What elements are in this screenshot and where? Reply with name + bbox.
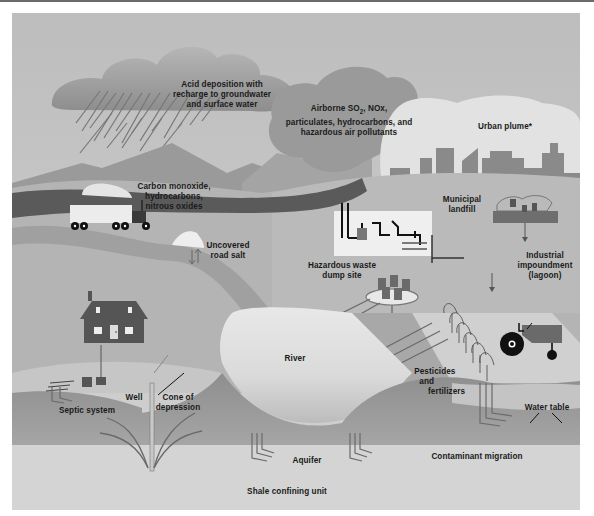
well-label: Well	[124, 392, 145, 402]
industrial-impoundment-label: Industrial impoundment (lagoon)	[515, 250, 575, 280]
pesticides-label: Pesticides and fertilizers	[414, 366, 466, 396]
groundwater-contamination-diagram: Acid deposition with recharge to groundw…	[12, 13, 580, 510]
hazardous-waste-label: Hazardous waste dump site	[308, 260, 377, 280]
shale-confining-unit-label: Shale confining unit	[240, 486, 335, 496]
road-salt-label: Uncovered road salt	[202, 240, 254, 260]
aquifer-label: Aquifer	[290, 455, 324, 465]
river-label: River	[282, 353, 308, 363]
acid-deposition-label: Acid deposition with recharge to groundw…	[162, 79, 282, 109]
top-border	[0, 0, 594, 2]
municipal-landfill-label: Municipal landfill	[441, 194, 484, 214]
water-table-label: Water table	[521, 402, 573, 412]
diagram-canvas	[12, 13, 580, 510]
urban-plume-label: Urban plume*	[475, 121, 535, 131]
airborne-pollutants-label: Airborne SO2, NOx, particulates, hydroca…	[285, 103, 414, 137]
septic-system-label: Septic system	[57, 405, 117, 415]
contaminant-migration-label: Contaminant migration	[430, 451, 525, 461]
cone-of-depression-label: Cone of depression	[152, 392, 204, 412]
vehicle-emissions-label: Carbon monoxide, hydrocarbons, nitrous o…	[131, 181, 217, 211]
